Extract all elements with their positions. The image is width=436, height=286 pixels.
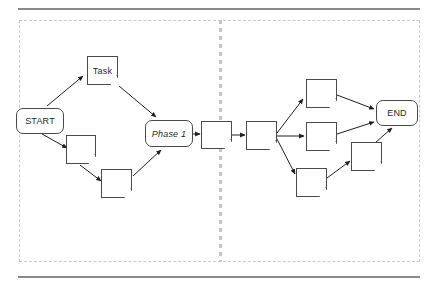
node-task-label: Task [93, 66, 112, 76]
node-start-label: START [25, 116, 55, 126]
node-end-label: END [387, 108, 407, 118]
node-step-2[interactable] [101, 169, 132, 198]
bottom-rule [18, 276, 420, 278]
node-start[interactable]: START [16, 108, 64, 134]
folded-corner-icon [123, 188, 131, 197]
node-branch-3[interactable] [296, 168, 327, 197]
node-phase-1-label: Phase 1 [152, 129, 186, 139]
folded-corner-icon [328, 141, 336, 150]
folded-corner-icon [109, 75, 117, 84]
node-hub[interactable] [246, 121, 277, 150]
node-branch-4[interactable] [351, 142, 382, 171]
node-phase-1[interactable]: Phase 1 [145, 120, 193, 147]
folded-corner-icon [87, 154, 95, 163]
folded-corner-icon [318, 187, 326, 196]
node-task[interactable]: Task [87, 56, 118, 85]
node-step-1[interactable] [66, 135, 96, 164]
node-branch-1[interactable] [306, 79, 337, 108]
folded-corner-icon [268, 140, 276, 149]
flowchart-canvas: START Task Phase 1 END [0, 0, 436, 286]
folded-corner-icon [373, 161, 381, 170]
node-end[interactable]: END [376, 100, 418, 126]
folded-corner-icon [223, 139, 231, 148]
top-rule [18, 8, 420, 10]
node-step-3[interactable] [201, 121, 232, 149]
node-branch-2[interactable] [306, 122, 337, 151]
folded-corner-icon [328, 98, 336, 107]
